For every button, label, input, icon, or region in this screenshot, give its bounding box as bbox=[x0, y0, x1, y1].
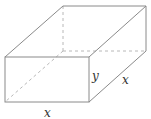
visible-edges bbox=[5, 6, 146, 102]
hidden-edge-diagonal bbox=[5, 51, 63, 102]
top-edge-left bbox=[5, 6, 63, 57]
front-face bbox=[5, 57, 89, 102]
hidden-edges bbox=[5, 6, 146, 102]
box-diagram: y x x bbox=[0, 0, 151, 119]
depth-label: x bbox=[122, 73, 129, 87]
top-edge-right bbox=[89, 6, 146, 57]
height-label: y bbox=[91, 69, 99, 83]
width-label: x bbox=[44, 106, 51, 119]
